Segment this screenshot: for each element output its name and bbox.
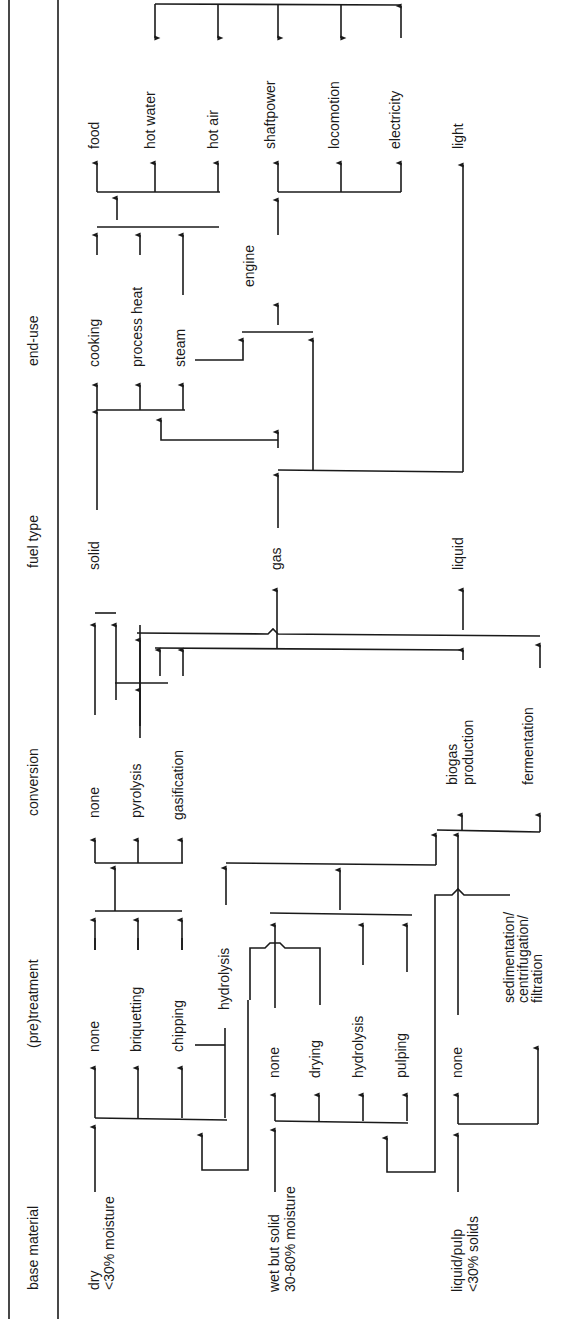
svg-text:filtration: filtration (529, 954, 545, 1003)
svg-text:liquid/pulp: liquid/pulp (449, 1229, 465, 1292)
end-shaftpower: shaftpower (262, 80, 278, 149)
fuel-solid: solid (86, 541, 102, 570)
pre-briquetting: briquetting (128, 987, 144, 1052)
svg-text:<30% solids: <30% solids (465, 1216, 481, 1292)
end-electricity: electricity (387, 91, 403, 149)
fuel-liquid: liquid (450, 537, 466, 570)
svg-text:<30% moisture: <30% moisture (101, 1196, 117, 1290)
svg-text:30-80% moisture: 30-80% moisture (282, 1186, 298, 1292)
base-dry: dry <30% moisture (86, 1196, 117, 1290)
svg-text:wet but solid: wet but solid (266, 1214, 282, 1293)
end-light: light (450, 123, 466, 149)
base-wet: wet but solid 30-80% moisture (266, 1186, 298, 1293)
use-cooking: cooking (86, 319, 102, 367)
use-process-heat: process heat (129, 287, 145, 367)
biomass-conversion-flowchart: base material (pre)treatment conversion … (0, 0, 579, 1319)
pre-hydrolysis-wet: hydrolysis (350, 1016, 366, 1078)
pre-none-liquid: none (449, 1047, 465, 1078)
header-conversion: conversion (25, 748, 41, 816)
end-locomotion: locomotion (326, 81, 342, 149)
svg-text:production: production (460, 720, 476, 785)
pre-hydrolysis-dry: hydrolysis (216, 948, 232, 1010)
pre-sedimentation: sedimentation/ centrifugation/ filtratio… (501, 912, 545, 1003)
svg-text:biogas: biogas (444, 744, 460, 785)
use-engine: engine (241, 245, 257, 287)
flow-connectors (95, 4, 540, 1192)
base-liquid: liquid/pulp <30% solids (449, 1216, 481, 1292)
pre-drying: drying (307, 1040, 323, 1078)
header-fuel-type: fuel type (25, 515, 41, 568)
pre-none-wet: none (266, 1047, 282, 1078)
end-hot-air: hot air (205, 110, 221, 149)
header-end-use: end-use (25, 315, 41, 366)
conv-pyrolysis: pyrolysis (128, 764, 144, 818)
conv-biogas-production: biogas production (444, 720, 476, 785)
header-pretreatment: (pre)treatment (25, 959, 41, 1048)
fuel-gas: gas (268, 547, 284, 570)
end-food: food (86, 122, 102, 149)
pre-none-dry: none (86, 1021, 102, 1052)
conv-gasification: gasification (170, 750, 186, 820)
conv-none: none (86, 787, 102, 818)
end-hot-water: hot water (142, 91, 158, 149)
conv-fermentation: fermentation (520, 707, 536, 785)
pre-chipping: chipping (170, 1000, 186, 1052)
svg-text:dry: dry (86, 1271, 102, 1290)
header-base-material: base material (25, 1206, 41, 1290)
use-steam: steam (172, 329, 188, 367)
pre-pulping: pulping (393, 1033, 409, 1078)
